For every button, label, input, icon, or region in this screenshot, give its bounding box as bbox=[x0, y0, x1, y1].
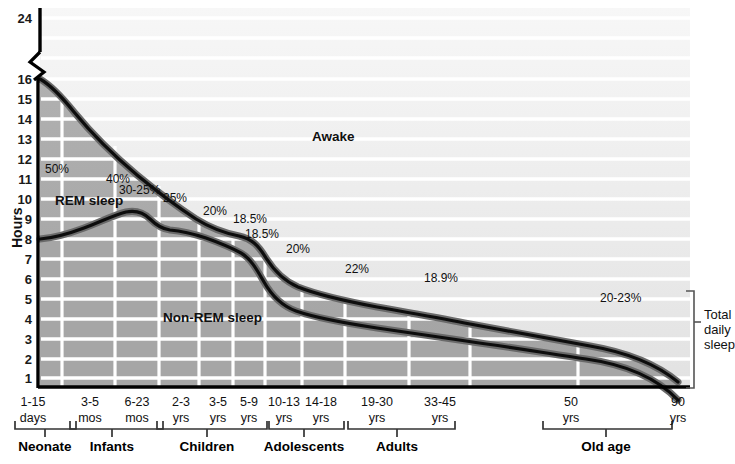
non-rem-sleep-region-label: Non-REM sleep bbox=[163, 311, 262, 325]
x-tick-line2: yrs bbox=[347, 412, 407, 425]
awake-region-label: Awake bbox=[312, 130, 355, 144]
x-tick-group: 33-45yrs bbox=[410, 396, 470, 424]
y-tick-4: 4 bbox=[6, 313, 32, 326]
x-tick-line2: days bbox=[3, 412, 63, 425]
y-tick-15: 15 bbox=[6, 93, 32, 106]
x-tick-line1: 14-18 bbox=[291, 396, 351, 409]
rem-percent-annotation: 30-25% bbox=[119, 184, 160, 196]
x-tick-line1: 90 bbox=[648, 396, 708, 409]
x-tick-line1: 1-15 bbox=[3, 396, 63, 409]
y-tick-13: 13 bbox=[6, 133, 32, 146]
rem-percent-annotation: 50% bbox=[45, 163, 69, 175]
total-daily-sleep-line1: Total bbox=[704, 307, 735, 322]
x-tick-line2: yrs bbox=[410, 412, 470, 425]
y-tick-11: 11 bbox=[6, 173, 32, 186]
total-daily-sleep-line2: daily bbox=[704, 322, 735, 337]
x-tick-group: 1-15days bbox=[3, 396, 63, 424]
x-tick-line1: 19-30 bbox=[347, 396, 407, 409]
rem-percent-annotation: 20-23% bbox=[600, 292, 641, 304]
plot-fills bbox=[40, 8, 690, 400]
x-tick-group: 90yrs bbox=[648, 396, 708, 424]
y-tick-7: 7 bbox=[6, 253, 32, 266]
rem-percent-annotation: 18.9% bbox=[424, 272, 458, 284]
x-tick-line1: 50 bbox=[541, 396, 601, 409]
y-tick-12: 12 bbox=[6, 153, 32, 166]
y-tick-3: 3 bbox=[6, 333, 32, 346]
x-tick-line2: yrs bbox=[291, 412, 351, 425]
y-tick-2: 2 bbox=[6, 353, 32, 366]
x-tick-line1: 33-45 bbox=[410, 396, 470, 409]
age-group-label-adults: Adults bbox=[327, 440, 467, 454]
y-tick-8: 8 bbox=[6, 233, 32, 246]
total-daily-sleep-label: Total daily sleep bbox=[704, 307, 735, 352]
rem-percent-annotation: 18.5% bbox=[245, 228, 279, 240]
y-tick-16: 16 bbox=[6, 73, 32, 86]
rem-percent-annotation: 20% bbox=[203, 205, 227, 217]
y-tick-6: 6 bbox=[6, 273, 32, 286]
y-tick-14: 14 bbox=[6, 113, 32, 126]
x-tick-group: 14-18yrs bbox=[291, 396, 351, 424]
x-tick-group: 19-30yrs bbox=[347, 396, 407, 424]
total-daily-sleep-line3: sleep bbox=[704, 337, 735, 352]
rem-sleep-region-label: REM sleep bbox=[55, 194, 123, 208]
x-tick-line2: yrs bbox=[648, 412, 708, 425]
rem-percent-annotation: 20% bbox=[286, 243, 310, 255]
x-tick-line2: yrs bbox=[541, 412, 601, 425]
y-tick-10: 10 bbox=[6, 193, 32, 206]
y-tick-24: 24 bbox=[6, 12, 32, 25]
y-tick-1: 1 bbox=[6, 372, 32, 385]
rem-percent-annotation: 25% bbox=[163, 192, 187, 204]
x-tick-group: 50yrs bbox=[541, 396, 601, 424]
y-tick-5: 5 bbox=[6, 293, 32, 306]
age-group-label-old-age: Old age bbox=[536, 440, 676, 454]
rem-percent-annotation: 22% bbox=[345, 263, 369, 275]
y-tick-9: 9 bbox=[6, 213, 32, 226]
rem-percent-annotation: 18.5% bbox=[233, 213, 267, 225]
